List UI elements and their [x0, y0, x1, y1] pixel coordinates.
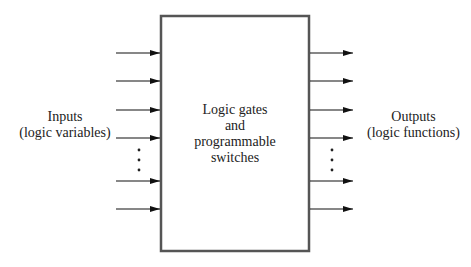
block-label: Logic gates and programmable switches [161, 102, 309, 166]
outputs-label: Outputs (logic functions) [356, 109, 471, 141]
inputs-label: Inputs (logic variables) [5, 109, 125, 141]
input-ellipsis-dots [138, 149, 141, 172]
output-arrows [310, 53, 353, 209]
output-ellipsis-dots [331, 149, 334, 172]
